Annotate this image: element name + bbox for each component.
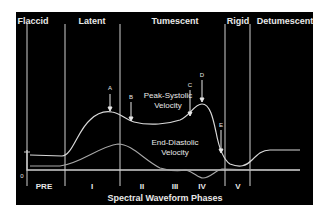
phase-label-iii: III [172,182,179,191]
marker-c-label: C [188,82,193,88]
marker-a-label: A [108,85,112,91]
phase-label-i: I [91,182,93,191]
phase-label-ii: II [140,182,144,191]
stage-dividers [27,24,250,186]
phase-label-v: V [235,182,241,191]
stage-label-latent: Latent [79,16,106,26]
end-diastolic-label-line1: End-Diastolic [151,138,198,147]
stage-label-detumescent: Detumescent [257,16,314,26]
x-axis-label: Spectral Waveform Phases [107,193,222,203]
phase-label-iv: IV [198,182,206,191]
zero-label: 0 [20,173,24,179]
marker-e-label: E [219,122,223,128]
stage-label-tumescent: Tumescent [152,16,199,26]
stage-label-rigid: Rigid [227,16,250,26]
marker-b-label: B [129,94,133,100]
end-diastolic-label-line2: Velocity [161,148,189,157]
peak-systolic-label-line2: Velocity [154,101,182,110]
waveform-diagram: Flaccid Latent Tumescent Rigid Detumesce… [0,0,332,219]
phase-label-pre: PRE [36,182,53,191]
peak-systolic-label-line1: Peak-Systolic [144,91,192,100]
marker-d-label: D [200,72,205,78]
stage-label-flaccid: Flaccid [17,16,48,26]
